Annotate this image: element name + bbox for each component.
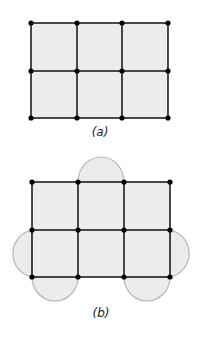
- semicircle-bottom-right: [124, 277, 170, 301]
- semicircle-right: [170, 230, 189, 277]
- caption-a: (a): [80, 125, 120, 139]
- figure-a: [28, 20, 170, 120]
- grid-diagrams: [0, 0, 198, 338]
- semicircle-left: [13, 230, 32, 277]
- semicircle-top: [78, 157, 124, 182]
- semicircle-bottom-left: [32, 277, 78, 301]
- figure-b: [13, 157, 189, 301]
- caption-b: (b): [81, 306, 121, 320]
